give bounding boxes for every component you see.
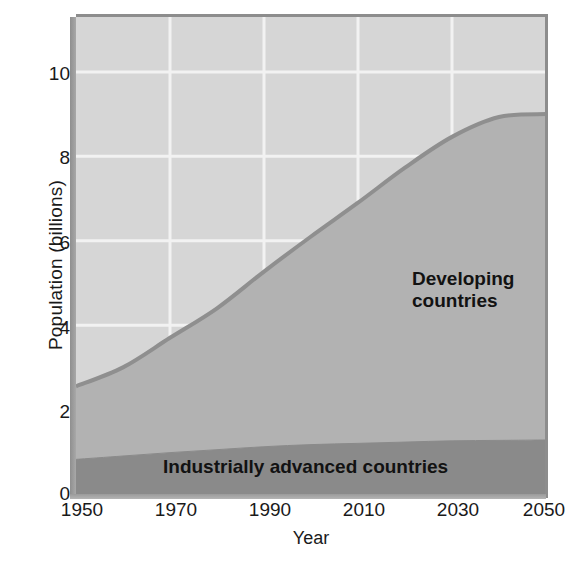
x-tick-1950: 1950 (42, 499, 122, 521)
y-tick-6: 6 (36, 232, 70, 254)
series-label-developing: Developing countries (412, 268, 514, 312)
axis-spine-left (70, 17, 76, 498)
y-tick-8: 8 (36, 147, 70, 169)
y-axis-tick-labels: 10 8 6 4 2 0 (30, 0, 70, 562)
developing-label-line2: countries (412, 290, 498, 311)
x-axis-title: Year (76, 528, 546, 549)
x-tick-1990: 1990 (230, 499, 310, 521)
developing-label-line1: Developing (412, 268, 514, 289)
y-tick-2: 2 (36, 401, 70, 423)
y-tick-4: 4 (36, 317, 70, 339)
axis-spine-right (545, 14, 548, 498)
x-tick-2010: 2010 (324, 499, 404, 521)
chart-canvas (76, 17, 546, 494)
plot-area: Developing countries (76, 17, 546, 494)
axis-spine-top (76, 14, 548, 17)
x-tick-1970: 1970 (136, 499, 216, 521)
x-tick-2050: 2050 (504, 499, 584, 521)
population-projection-chart: Population (billions) 10 8 6 4 2 0 Devel… (0, 0, 587, 562)
y-tick-10: 10 (36, 63, 70, 85)
series-label-industrially-advanced: Industrially advanced countries (163, 456, 448, 478)
x-axis-tick-labels: 1950 1970 1990 2010 2030 2050 (0, 499, 587, 529)
x-tick-2030: 2030 (418, 499, 498, 521)
